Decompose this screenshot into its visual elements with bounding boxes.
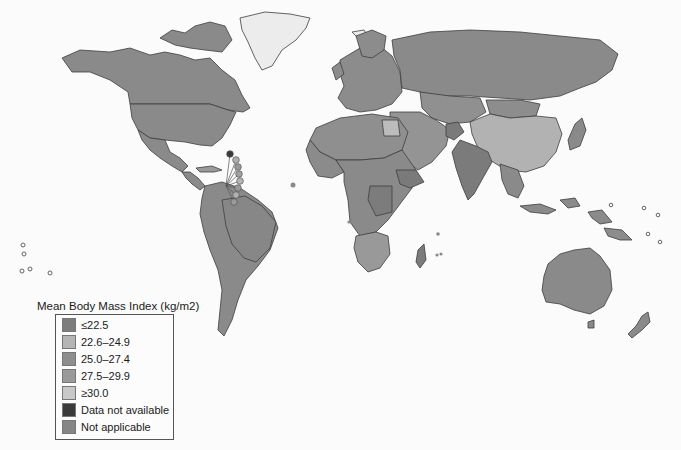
legend-title: Mean Body Mass Index (kg/m2) [37,300,199,312]
region-russia [392,30,618,100]
region-greenland [240,12,310,70]
legend-swatch [62,352,76,366]
legend-label: 27.5–29.9 [81,370,130,382]
region-arctic-islands [160,22,232,52]
legend-swatch [62,335,76,349]
region-australia [542,248,612,314]
legend-item: 22.6–24.9 [62,335,130,349]
legend-label: ≤22.5 [81,319,108,331]
region-papua [604,228,632,240]
region-new-zealand [628,312,650,338]
region-tasmania [588,320,594,328]
legend-item: 27.5–29.9 [62,369,130,383]
region-egypt [382,120,400,136]
legend-label: 25.0–27.4 [81,353,130,365]
legend-item: Data not available [62,403,169,417]
legend-item: 25.0–27.4 [62,352,130,366]
legend-label: ≥30.0 [81,387,108,399]
legend-item: Not applicable [62,420,151,434]
legend-swatch [62,369,76,383]
region-southern-africa [354,232,390,272]
legend-item: ≥30.0 [62,386,108,400]
legend-swatch [62,386,76,400]
region-japan [568,118,586,150]
region-caribbean [196,166,222,172]
legend-label: Not applicable [81,421,151,433]
legend-swatch [62,403,76,417]
region-afghanistan [446,122,464,140]
legend-label: 22.6–24.9 [81,336,130,348]
legend-item: ≤22.5 [62,318,108,332]
region-central-america [182,172,205,190]
legend-label: Data not available [81,404,169,416]
legend-swatch [62,318,76,332]
region-indonesia [520,198,612,224]
region-madagascar [416,244,426,268]
legend: ≤22.5 22.6–24.9 25.0–27.4 27.5–29.9 ≥30.… [55,314,174,440]
region-canada [62,48,250,112]
legend-swatch [62,420,76,434]
